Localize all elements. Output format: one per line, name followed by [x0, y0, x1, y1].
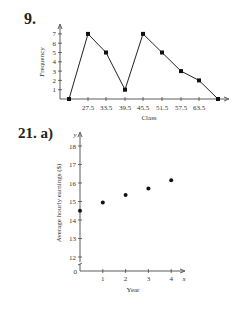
y-tick-label: 1: [53, 86, 57, 94]
x-tick-label: 45.5: [137, 104, 150, 112]
data-point: [67, 97, 71, 101]
y-tick-label: 3: [53, 68, 57, 76]
data-point: [197, 78, 201, 82]
x-axis-label: Class: [141, 114, 156, 122]
x-tick-label: 2: [124, 275, 128, 283]
y-tick-label: 18: [69, 143, 77, 151]
x-tick-label: 4: [169, 275, 173, 283]
data-point: [78, 209, 82, 213]
y-axis-label: Average hourly earnings ($): [55, 163, 63, 242]
x-tick-label: 3: [147, 275, 151, 283]
x-tick-label: 39.5: [119, 104, 132, 112]
origin-label: 0: [74, 268, 78, 276]
charts-canvas: 123456727.533.539.545.551.557.563.5Class…: [0, 0, 237, 312]
y-tick-label: 16: [69, 180, 77, 188]
data-point: [160, 51, 164, 55]
y-tick-label: 14: [69, 217, 77, 225]
data-point: [216, 97, 220, 101]
data-point: [146, 187, 150, 191]
y-tick-label: 2: [53, 77, 57, 85]
frequency-polygon-line: [69, 34, 218, 99]
data-point: [169, 178, 173, 182]
x-axis-symbol: x: [181, 275, 186, 283]
x-tick-label: 57.5: [175, 104, 188, 112]
y-tick-label: 13: [69, 235, 77, 243]
y-tick-label: 6: [53, 40, 57, 48]
y-tick-label: 17: [69, 161, 77, 169]
x-tick-label: 27.5: [82, 104, 95, 112]
data-point: [86, 32, 90, 36]
data-point: [179, 69, 183, 73]
data-point: [123, 88, 127, 92]
y-axis-label: Frequency: [38, 47, 46, 77]
x-tick-label: 63.5: [193, 104, 206, 112]
data-point: [124, 193, 128, 197]
y-axis-symbol: y: [72, 131, 77, 139]
y-tick-label: 4: [53, 58, 57, 66]
data-point: [101, 200, 105, 204]
y-tick-label: 7: [53, 30, 57, 38]
x-tick-label: 1: [101, 275, 105, 283]
y-tick-label: 5: [53, 49, 57, 57]
y-tick-label: 15: [69, 198, 77, 206]
data-point: [104, 51, 108, 55]
x-axis-label: Year: [127, 286, 141, 294]
x-tick-label: 51.5: [156, 104, 169, 112]
x-tick-label: 33.5: [100, 104, 113, 112]
y-tick-label: 12: [69, 254, 77, 262]
data-point: [141, 32, 145, 36]
